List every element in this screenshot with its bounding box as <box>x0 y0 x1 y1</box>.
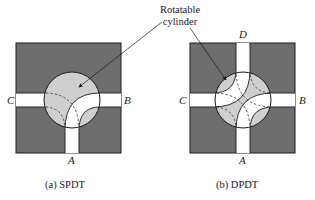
callout-line-1: Rotatable <box>160 4 201 15</box>
dpdt-port-b-label: B <box>299 94 306 106</box>
spdt-caption: (a) SPDT <box>45 179 86 191</box>
dpdt-port-a-guide <box>236 127 250 153</box>
dpdt-switch: D C B A (b) DPDT <box>179 28 306 191</box>
switch-diagram: C B A (a) SPDT <box>0 0 315 200</box>
spdt-port-c-label: C <box>7 94 15 106</box>
dpdt-port-a-label: A <box>238 154 246 166</box>
dpdt-port-b-guide <box>269 93 295 107</box>
spdt-port-a-label: A <box>67 154 75 166</box>
dpdt-port-d-guide <box>236 43 250 73</box>
spdt-port-b-guide <box>97 93 121 107</box>
spdt-switch: C B A (a) SPDT <box>7 43 131 191</box>
dpdt-port-c-label: C <box>179 94 187 106</box>
dpdt-port-d-label: D <box>238 28 247 40</box>
callout-line-2: cylinder <box>163 16 198 27</box>
spdt-port-c-guide <box>16 93 46 107</box>
dpdt-caption: (b) DPDT <box>216 179 259 191</box>
dpdt-port-c-guide <box>190 93 217 107</box>
spdt-port-b-label: B <box>124 94 131 106</box>
